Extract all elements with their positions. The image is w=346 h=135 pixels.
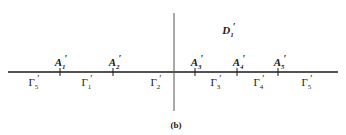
point-label-a4: A4′ — [233, 54, 246, 71]
segment-prime: ′ — [262, 73, 264, 84]
segment-prime: ′ — [90, 73, 92, 84]
point-sub: 3 — [198, 63, 202, 71]
point-prime: ′ — [243, 53, 246, 64]
diagram-canvas — [0, 0, 346, 135]
point-label-a2: A2′ — [109, 54, 122, 71]
segment-label-gamma2: Γ2′ — [150, 74, 161, 91]
point-sub: 4 — [240, 63, 244, 71]
segment-label-gamma1: Γ1′ — [81, 74, 92, 91]
figure-caption: (b) — [171, 120, 182, 130]
segment-prime: ′ — [219, 73, 221, 84]
segment-prime: ′ — [310, 73, 312, 84]
point-sub: 2 — [116, 63, 120, 71]
segment-sub: 4 — [260, 83, 264, 91]
segment-label-gamma3: Γ3′ — [210, 74, 221, 91]
point-prime: ′ — [201, 53, 204, 64]
segment-sub: 2 — [157, 83, 161, 91]
point-label-a3: A3′ — [191, 54, 204, 71]
point-sub: 5 — [281, 63, 285, 71]
segment-label-gamma4: Γ4′ — [253, 74, 264, 91]
segment-label-gamma5-right: Γ5′ — [301, 74, 312, 91]
region-label-sub: 1 — [230, 31, 234, 39]
point-label-a5: A5′ — [274, 54, 287, 71]
segment-sub: 5 — [308, 83, 312, 91]
point-sub: 1 — [62, 63, 66, 71]
region-label-d1: D1′ — [222, 22, 235, 39]
segment-sub: 5 — [35, 83, 39, 91]
segment-label-gamma5-left: Γ5′ — [28, 74, 39, 91]
region-label-base: D — [222, 24, 230, 36]
point-prime: ′ — [65, 53, 68, 64]
segment-sub: 1 — [88, 83, 92, 91]
segment-sub: 3 — [217, 83, 221, 91]
segment-prime: ′ — [37, 73, 39, 84]
segment-prime: ′ — [159, 73, 161, 84]
point-prime: ′ — [119, 53, 122, 64]
point-label-a1: A1′ — [55, 54, 68, 71]
region-label-prime: ′ — [233, 21, 236, 32]
point-prime: ′ — [284, 53, 287, 64]
